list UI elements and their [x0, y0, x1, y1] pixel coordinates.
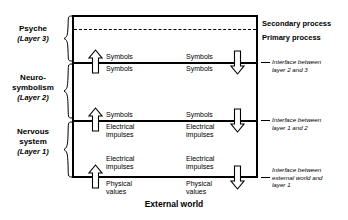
flow-label-above-right-1: Symbols [186, 53, 213, 61]
layer-name-neuro-line2: symbolism [12, 83, 54, 92]
layer-label-nervous-system: Nervous system (Layer 1) [2, 127, 64, 157]
annotation-line3: layer 1 [272, 181, 291, 188]
divider-secondary-primary-process [74, 29, 256, 30]
layer-name-neuro-line1: Neuro- [20, 73, 46, 82]
flow-label-above-right-3: Electrical impulses [186, 155, 214, 172]
flow-label-above-left-2: Symbols [106, 111, 133, 119]
layer-label-neurosymbolism: Neuro- symbolism (Layer 2) [2, 73, 64, 103]
annotation-line1: Interface between [272, 58, 321, 65]
label-primary-process: Primary process [262, 33, 321, 42]
layer-name-psyche: Psyche [19, 24, 47, 33]
annotation-interface-layer-2-3: Interface between layer 2 and 3 [272, 58, 346, 73]
layer-label-psyche: Psyche (Layer 3) [2, 24, 64, 44]
caption-external-world: External world [0, 199, 348, 209]
annotation-line2: external world and [272, 174, 323, 181]
flow-label-above-right-2: Symbols [186, 111, 213, 119]
flow-label-below-right-3: Physical values [186, 180, 212, 197]
diagram-canvas: Psyche (Layer 3) Neuro- symbolism (Layer… [0, 0, 348, 220]
iface-tick-layer-1-2 [261, 120, 270, 121]
up-arrow-external-layer-1 [88, 164, 103, 189]
flow-label-above-left-1: Symbols [106, 53, 133, 61]
flow-line1: Electrical [106, 155, 134, 162]
iface-tick-layer-2-3 [261, 62, 270, 63]
layer-sub-neuro: (Layer 2) [2, 93, 64, 103]
flow-line2: values [106, 188, 126, 195]
flow-line1: Physical [186, 180, 212, 187]
flow-label-above-left-3: Electrical impulses [106, 155, 134, 172]
layer-name-nervous-line2: system [19, 137, 47, 146]
flow-label-below-right-2: Electrical impulses [186, 123, 214, 140]
annotation-line2: layer 2 and 3 [272, 66, 308, 73]
flow-label-below-left-1: Symbols [106, 65, 133, 73]
flow-line2: values [186, 188, 206, 195]
layers-box [72, 15, 258, 178]
annotation-line2: layer 1 and 2 [272, 124, 308, 131]
flow-line1: Electrical [186, 155, 214, 162]
annotation-line1: Interface between [272, 166, 321, 173]
layer-sub-nervous: (Layer 1) [2, 147, 64, 157]
label-secondary-process: Secondary process [262, 19, 331, 28]
flow-line2: impulses [186, 163, 214, 170]
annotation-interface-layer-1-2: Interface between layer 1 and 2 [272, 116, 346, 131]
up-arrow-layer-2-3 [88, 49, 103, 74]
flow-label-below-left-2: Electrical impulses [106, 123, 134, 140]
annotation-line1: Interface between [272, 116, 321, 123]
flow-line2: impulses [106, 131, 134, 138]
down-arrow-external-layer-1 [230, 165, 245, 190]
annotation-interface-external-layer-1: Interface between external world and lay… [272, 166, 346, 189]
layer-name-nervous-line1: Nervous [17, 127, 49, 136]
layer-sub-psyche: (Layer 3) [2, 34, 64, 44]
down-arrow-layer-2-3 [230, 50, 245, 75]
flow-label-below-left-3: Physical values [106, 180, 132, 197]
flow-line1: Physical [106, 180, 132, 187]
flow-line2: impulses [186, 131, 214, 138]
up-arrow-layer-1-2 [88, 107, 103, 132]
flow-line1: Electrical [186, 123, 214, 130]
flow-line1: Electrical [106, 123, 134, 130]
flow-label-below-right-1: Symbols [186, 65, 213, 73]
down-arrow-layer-1-2 [230, 108, 245, 133]
flow-line2: impulses [106, 163, 134, 170]
iface-tick-external-layer-1 [261, 177, 270, 178]
